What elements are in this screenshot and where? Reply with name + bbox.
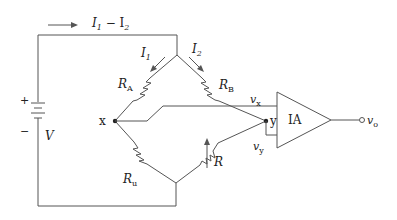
vy-label: vy [253, 140, 264, 155]
vx-wire [115, 106, 277, 121]
r-label: R [213, 155, 223, 169]
battery-minus-label: − [20, 125, 29, 138]
i1-label: I1 [140, 46, 151, 62]
battery-symbol [31, 103, 45, 122]
source-current-label: I1 − I2 [91, 16, 129, 32]
circuit-diagram: + − V I1 − I2 x y I1 I2 RA RB Ru R vx vy [0, 0, 397, 220]
amplifier-label: IA [288, 113, 302, 127]
ru-label: Ru [122, 172, 137, 188]
battery-voltage-label: V [45, 129, 55, 143]
vx-label: vx [250, 93, 261, 108]
ra-label: RA [117, 77, 133, 93]
node-x-label: x [99, 114, 106, 128]
instrumentation-amplifier [277, 92, 331, 148]
vo-label: vo [367, 114, 378, 129]
bottom-wire [38, 122, 176, 206]
i1-arrow [150, 57, 165, 72]
i2-label: I2 [191, 42, 202, 58]
node-y-label: y [269, 114, 277, 128]
current-arrow [48, 22, 78, 28]
variable-resistor-arrow [204, 138, 210, 168]
rb-label: RB [218, 78, 234, 94]
output-terminal [360, 118, 365, 123]
battery-plus-label: + [20, 94, 29, 107]
i2-arrow [189, 57, 204, 72]
